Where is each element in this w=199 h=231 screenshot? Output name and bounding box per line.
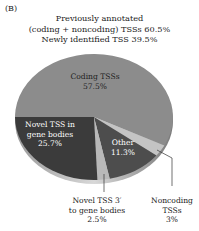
label-novel-3prime-line1: Novel TSS 3′ xyxy=(62,196,132,206)
label-noncoding: Noncoding TSSs 3% xyxy=(145,196,199,225)
label-other: Other 11.3% xyxy=(103,138,143,157)
label-noncoding-line1: Noncoding xyxy=(145,196,199,206)
label-novel-gene-bodies-line2: gene bodies xyxy=(17,130,83,140)
label-coding-name: Coding TSSs xyxy=(55,72,135,82)
label-novel-3prime: Novel TSS 3′ to gene bodies 2.5% xyxy=(62,196,132,225)
label-novel-gene-bodies: Novel TSS in gene bodies 25.7% xyxy=(17,120,83,149)
label-novel-gene-bodies-line1: Novel TSS in xyxy=(17,120,83,130)
label-noncoding-value: 3% xyxy=(145,215,199,225)
label-noncoding-line2: TSSs xyxy=(145,206,199,216)
label-other-value: 11.3% xyxy=(103,148,143,158)
label-novel-3prime-line2: to gene bodies xyxy=(62,206,132,216)
label-other-name: Other xyxy=(103,138,143,148)
label-coding-value: 57.5% xyxy=(55,82,135,92)
label-novel-3prime-value: 2.5% xyxy=(62,215,132,225)
label-coding: Coding TSSs 57.5% xyxy=(55,72,135,91)
label-novel-gene-bodies-value: 25.7% xyxy=(17,139,83,149)
